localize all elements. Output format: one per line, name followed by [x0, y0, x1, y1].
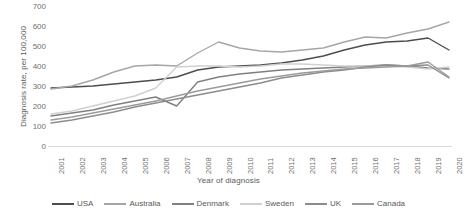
plot-area: [48, 6, 452, 146]
x-axis-title: Year of diagnosis: [0, 176, 457, 185]
x-axis-tick: 2012: [287, 157, 296, 174]
x-axis-tick: 2007: [183, 157, 192, 174]
x-axis-tick: 2020: [455, 157, 464, 174]
legend-label: UK: [330, 200, 341, 208]
y-axis-tick: 700: [33, 2, 46, 11]
legend-color-swatch: [352, 203, 374, 205]
x-axis-tick: 2011: [266, 158, 275, 174]
legend-item[interactable]: Australia: [104, 200, 160, 208]
x-axis-tick: 2003: [99, 157, 108, 174]
x-axis-tick: 2018: [413, 157, 422, 174]
legend-color-swatch: [52, 203, 74, 205]
x-axis-tick: 2005: [141, 157, 150, 174]
x-axis-tick: 2006: [162, 157, 171, 174]
y-axis-tick: 600: [33, 22, 46, 31]
legend-color-swatch: [240, 203, 262, 205]
legend-item[interactable]: USA: [52, 200, 93, 208]
x-axis-tick: 2001: [57, 157, 66, 174]
x-axis-tick: 2008: [204, 157, 213, 174]
legend-color-swatch: [104, 203, 126, 205]
y-axis-tick: 400: [33, 62, 46, 71]
legend-color-swatch: [305, 203, 327, 205]
legend-label: Canada: [377, 200, 405, 208]
x-axis-tick: 2009: [225, 157, 234, 174]
legend-item[interactable]: Sweden: [240, 200, 294, 208]
y-axis-tick: 300: [33, 82, 46, 91]
legend-item[interactable]: UK: [305, 200, 341, 208]
legend-item[interactable]: Canada: [352, 200, 405, 208]
y-axis-tick: 100: [33, 122, 46, 131]
y-axis-tick: 200: [33, 102, 46, 111]
legend-color-swatch: [172, 203, 194, 205]
x-axis-line: [48, 146, 452, 147]
series-line: [51, 64, 449, 114]
x-axis-tick: 2016: [371, 157, 380, 174]
legend-label: USA: [77, 200, 93, 208]
x-axis-tick: 2013: [308, 157, 317, 174]
y-axis-tick-labels: 0100200300400500600700: [18, 0, 46, 160]
series-lines: [48, 6, 452, 146]
y-axis-tick: 500: [33, 42, 46, 51]
chart-legend: USAAustraliaDenmarkSwedenUKCanada: [0, 200, 457, 208]
x-axis-tick-labels: 2001200220032004200520062007200820092010…: [48, 148, 452, 176]
x-axis-tick: 2015: [350, 157, 359, 174]
y-axis-tick: 0: [42, 142, 46, 151]
legend-label: Sweden: [265, 200, 294, 208]
x-axis-tick: 2004: [120, 157, 129, 174]
x-axis-tick: 2002: [78, 157, 87, 174]
legend-label: Denmark: [197, 200, 229, 208]
series-line: [51, 62, 449, 120]
x-axis-tick: 2010: [246, 157, 255, 174]
legend-label: Australia: [129, 200, 160, 208]
legend-item[interactable]: Denmark: [172, 200, 229, 208]
x-axis-tick: 2017: [392, 157, 401, 174]
x-axis-tick: 2019: [434, 157, 443, 174]
series-line: [51, 22, 449, 89]
x-axis-tick: 2014: [329, 157, 338, 174]
